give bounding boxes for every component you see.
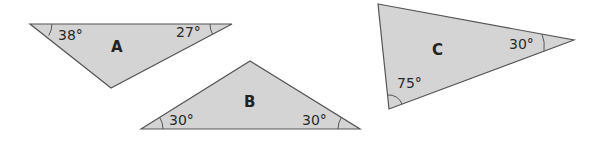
triangle-c-angle-right: 30°	[509, 36, 534, 52]
triangle-a: 38° 27° A	[30, 24, 232, 88]
triangle-b-angle-right: 30°	[302, 112, 327, 128]
triangle-c-angle-bottom: 75°	[397, 75, 422, 91]
triangle-a-angle-right: 27°	[176, 24, 201, 40]
triangle-c-shape	[378, 4, 574, 109]
triangle-a-label: A	[111, 38, 123, 56]
triangle-b-angle-left: 30°	[169, 112, 194, 128]
triangle-c-label: C	[432, 41, 443, 59]
triangle-a-angle-left: 38°	[58, 27, 83, 43]
triangle-c: 30° 75° C	[378, 4, 574, 109]
triangle-b-label: B	[244, 93, 255, 111]
triangle-b: 30° 30° B	[141, 61, 360, 129]
